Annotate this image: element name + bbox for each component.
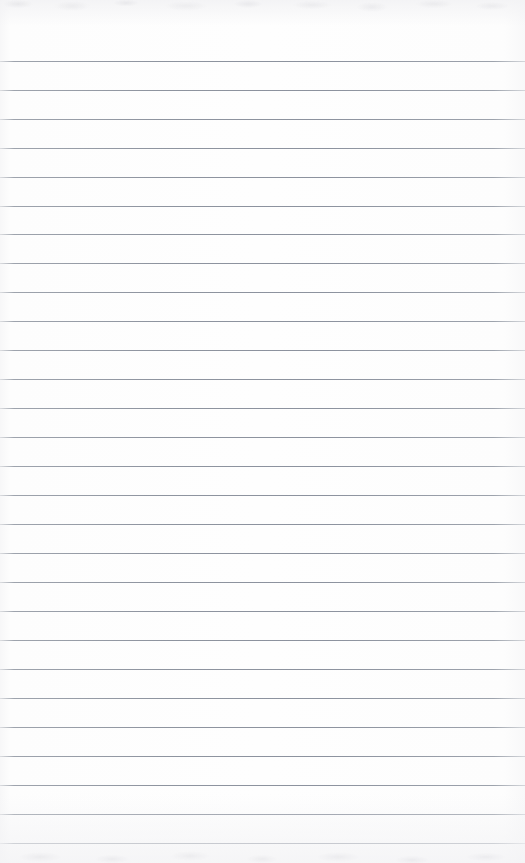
ruled-line [0,379,525,380]
ruled-line-ink [0,466,525,467]
ruled-line-ink [0,669,525,670]
ruled-line-ink [0,756,525,757]
ruled-line [0,524,525,525]
ruled-line-ink [0,234,525,235]
ruled-line [0,61,525,62]
ruled-line [0,350,525,351]
ruled-line-ink [0,553,525,554]
ruled-line-ink [0,263,525,264]
ruled-line-ink [0,177,525,178]
ruled-line [0,640,525,641]
ruled-line [0,727,525,728]
ruled-line [0,698,525,699]
ruled-line-ink [0,292,525,293]
ruled-line-ink [0,321,525,322]
ruled-line-ink [0,843,525,844]
ruled-line-ink [0,437,525,438]
ruled-line [0,495,525,496]
ruled-line [0,234,525,235]
ruled-line [0,119,525,120]
ruled-line-ink [0,495,525,496]
ruled-line-ink [0,408,525,409]
ruled-line-ink [0,90,525,91]
ruled-line [0,292,525,293]
ruled-line [0,756,525,757]
ruled-line [0,177,525,178]
ruled-line-ink [0,582,525,583]
ruled-line [0,611,525,612]
ruled-line [0,553,525,554]
ruled-line [0,785,525,786]
ruled-lines-layer [0,0,525,863]
ruled-line-ink [0,350,525,351]
notebook-page [0,0,525,863]
ruled-line-ink [0,119,525,120]
ruled-line [0,148,525,149]
ruled-line-ink [0,379,525,380]
ruled-line [0,843,525,844]
ruled-line [0,263,525,264]
ruled-line [0,814,525,815]
ruled-line-ink [0,61,525,62]
ruled-line [0,90,525,91]
ruled-line [0,582,525,583]
ruled-line-ink [0,206,525,207]
ruled-line-ink [0,148,525,149]
ruled-line-ink [0,524,525,525]
ruled-line-ink [0,785,525,786]
ruled-line [0,408,525,409]
ruled-line [0,437,525,438]
ruled-line-ink [0,611,525,612]
ruled-line-ink [0,814,525,815]
ruled-line [0,321,525,322]
ruled-line [0,466,525,467]
ruled-line-ink [0,698,525,699]
ruled-line-ink [0,640,525,641]
ruled-line-ink [0,727,525,728]
ruled-line [0,206,525,207]
ruled-line [0,669,525,670]
